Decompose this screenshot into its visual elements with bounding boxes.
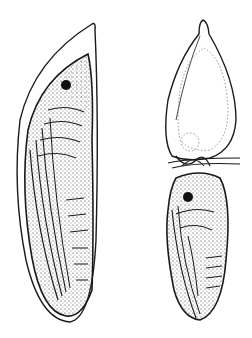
pupae-illustration xyxy=(0,0,252,338)
left-pupa xyxy=(17,24,97,322)
right-pupa xyxy=(166,20,240,320)
illustration-canvas xyxy=(0,0,252,338)
